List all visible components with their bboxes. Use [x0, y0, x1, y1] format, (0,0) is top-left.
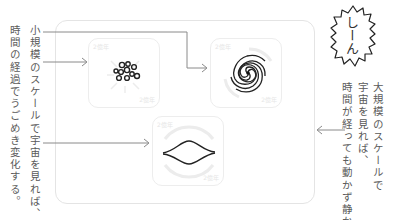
panel-spiral-galaxy: 2億年 2億年 — [210, 38, 282, 108]
lens-wave-icon — [153, 117, 225, 187]
panel-particle-cluster: 2億年 2億年 — [88, 38, 160, 108]
particle-cluster-icon — [89, 39, 161, 109]
right-caption-line1: 大規模のスケールで — [370, 82, 384, 192]
right-caption-line2: 宇宙を見れば、 — [355, 82, 369, 167]
left-caption-line2: 時間の経過でうごめき変化する。 — [7, 25, 21, 208]
right-caption-line3: 時間が経っても動かず静か。 — [339, 82, 353, 220]
bubble-text: しーん — [343, 16, 359, 55]
spiral-galaxy-icon — [211, 39, 283, 109]
panel-lens-wave: 2億年 2億年 — [152, 116, 224, 186]
diagram-container: 2億年 2億年 2億年 2億年 — [55, 20, 315, 204]
left-caption-line1: 小規模のスケールで宇宙を見れば、 — [27, 25, 41, 220]
